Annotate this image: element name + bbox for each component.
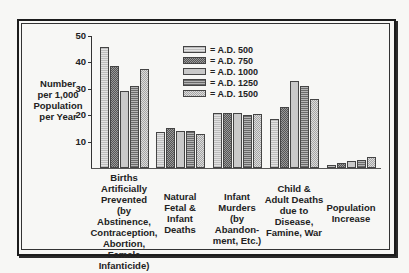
category-label: NaturalFetal &InfantDeaths [158, 191, 202, 235]
legend-item: = A.D. 1250 [183, 77, 258, 88]
bar [300, 86, 309, 168]
bar [223, 113, 232, 168]
x-axis [91, 168, 381, 169]
bar [196, 134, 205, 168]
legend-label: = A.D. 1500 [210, 89, 258, 99]
bar [337, 163, 346, 168]
bar [290, 81, 299, 168]
y-tick [88, 142, 92, 143]
bar [367, 157, 376, 168]
bar [120, 91, 129, 168]
y-tick [88, 89, 92, 90]
legend-swatch-icon [183, 57, 206, 64]
legend-item: = A.D. 750 [183, 55, 258, 66]
y-axis [91, 36, 92, 169]
bar [176, 131, 185, 168]
bar [327, 165, 336, 168]
legend-item: = A.D. 1000 [183, 66, 258, 77]
legend: = A.D. 500= A.D. 750= A.D. 1000= A.D. 12… [183, 44, 258, 99]
legend-item: = A.D. 1500 [183, 88, 258, 99]
category-label: Child &Adult Deathsdue toDisease,Famine,… [263, 183, 325, 238]
category-label: BirthsArtificiallyPrevented(by Abstinenc… [89, 172, 159, 271]
legend-label: = A.D. 1000 [210, 67, 258, 77]
legend-swatch-icon [183, 79, 206, 86]
y-tick [88, 62, 92, 63]
legend-label: = A.D. 500 [210, 45, 253, 55]
y-tick-label: 30 [66, 84, 86, 94]
y-tick-label: 50 [66, 31, 86, 41]
bar [280, 107, 289, 168]
bar [310, 99, 319, 168]
bar [100, 47, 109, 168]
bar [243, 115, 252, 168]
bar [213, 113, 222, 168]
legend-swatch-icon [183, 68, 206, 75]
bar [156, 132, 165, 168]
bar [357, 160, 366, 168]
bar [130, 86, 139, 168]
bar [253, 114, 262, 168]
bar [140, 69, 149, 168]
bar [166, 128, 175, 168]
legend-label: = A.D. 1250 [210, 78, 258, 88]
legend-swatch-icon [183, 46, 206, 53]
y-tick-label: 40 [66, 57, 86, 67]
y-tick-label: 20 [66, 110, 86, 120]
bar [270, 119, 279, 168]
bar [186, 131, 195, 168]
y-tick-label: 10 [66, 137, 86, 147]
legend-swatch-icon [183, 90, 206, 97]
legend-item: = A.D. 500 [183, 44, 258, 55]
y-tick [88, 36, 92, 37]
bar [110, 66, 119, 168]
bar [347, 161, 356, 168]
category-label: PopulationIncrease [322, 202, 380, 224]
legend-label: = A.D. 750 [210, 56, 253, 66]
bar [233, 113, 242, 168]
y-tick [88, 115, 92, 116]
category-label: InfantMurders(by Abandon-ment, Etc.) [208, 191, 266, 246]
